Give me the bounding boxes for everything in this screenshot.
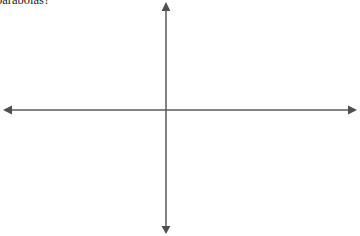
y-axis-bottom-arrowhead <box>162 226 171 234</box>
x-axis-left-arrowhead <box>3 106 12 115</box>
y-axis-top-arrowhead <box>162 2 171 11</box>
figure-canvas: parabolas? <box>0 0 360 236</box>
x-axis-right-arrowhead <box>348 106 357 115</box>
coordinate-plane <box>0 0 360 236</box>
